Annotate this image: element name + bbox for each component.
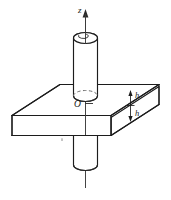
lower-cylinder: [74, 136, 98, 171]
z-axis-label: z: [77, 5, 82, 15]
technical-diagram: z O h h: [0, 0, 171, 200]
thickness-lower-label: h: [135, 108, 139, 118]
lower-cylinder-body: [74, 136, 98, 171]
slab-front-face: [12, 116, 111, 136]
origin-label: O: [74, 99, 81, 109]
figure-container: z O h h: [0, 0, 171, 200]
thickness-upper-label: h: [135, 90, 139, 100]
